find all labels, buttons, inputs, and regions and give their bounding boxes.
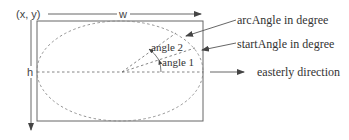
arc-angle-diagram: (x, y) w h angle 2 angle 1 arcAngle in d… bbox=[0, 0, 349, 140]
easterly-direction-label: easterly direction bbox=[257, 65, 340, 79]
bounding-rectangle bbox=[37, 21, 203, 121]
start-angle-pointer bbox=[202, 43, 236, 50]
inscribed-ellipse bbox=[37, 21, 203, 121]
start-angle-label: startAngle in degree bbox=[237, 37, 334, 51]
angle-2-label: angle 2 bbox=[151, 41, 183, 53]
width-label: w bbox=[118, 8, 127, 20]
arc-angle-pointer bbox=[186, 20, 236, 36]
angle-1-label: angle 1 bbox=[162, 56, 194, 68]
arc-angle-label: arcAngle in degree bbox=[237, 13, 328, 27]
angle-1-arc bbox=[159, 60, 161, 72]
height-label: h bbox=[27, 66, 33, 78]
origin-label: (x, y) bbox=[16, 8, 40, 20]
